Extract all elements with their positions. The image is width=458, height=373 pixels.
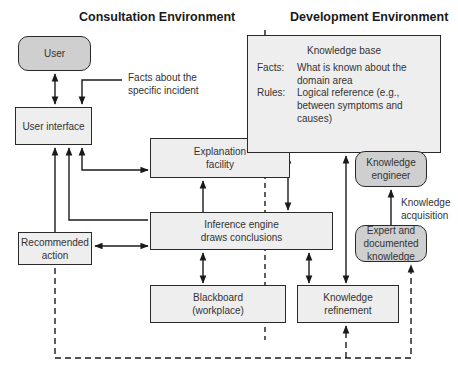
node-knowledge-engineer-label: Knowledge engineer [366,156,415,182]
node-user-interface: User interface [15,107,92,145]
node-knowledge-refinement-label: Knowledge refinement [323,291,372,317]
node-recommended-action: Recommended action [18,232,92,265]
node-knowledge-engineer: Knowledge engineer [355,151,427,187]
node-knowledge-refinement: Knowledge refinement [297,285,399,323]
node-inference-engine-label: Inference engine draws conclusions [201,218,283,244]
annotation-facts-incident: Facts about the specific incident [128,71,199,97]
knowledge-base-rules-key: Rules: [257,86,297,125]
knowledge-base-facts-value: What is known about the domain area [297,61,434,87]
node-blackboard-label: Blackboard (workplace) [192,291,244,317]
node-explanation-facility-label: Explanation facility [194,145,246,171]
node-user: User [18,36,91,71]
knowledge-base-title: Knowledge base [248,44,440,57]
node-inference-engine: Inference engine draws conclusions [150,212,333,250]
node-user-label: User [44,47,65,60]
annotation-knowledge-acquisition: Knowledge acquisition [401,196,450,222]
knowledge-base-facts-key: Facts: [257,61,297,87]
node-knowledge-base: Knowledge base Facts: What is known abou… [247,35,441,153]
node-expert-knowledge-label: Expert and documented knowledge [363,224,418,263]
node-blackboard: Blackboard (workplace) [150,285,286,323]
node-recommended-action-label: Recommended action [21,236,89,262]
node-user-interface-label: User interface [22,120,84,133]
knowledge-base-rules-value: Logical reference (e.g., between symptom… [297,86,434,125]
node-expert-knowledge: Expert and documented knowledge [355,225,427,262]
